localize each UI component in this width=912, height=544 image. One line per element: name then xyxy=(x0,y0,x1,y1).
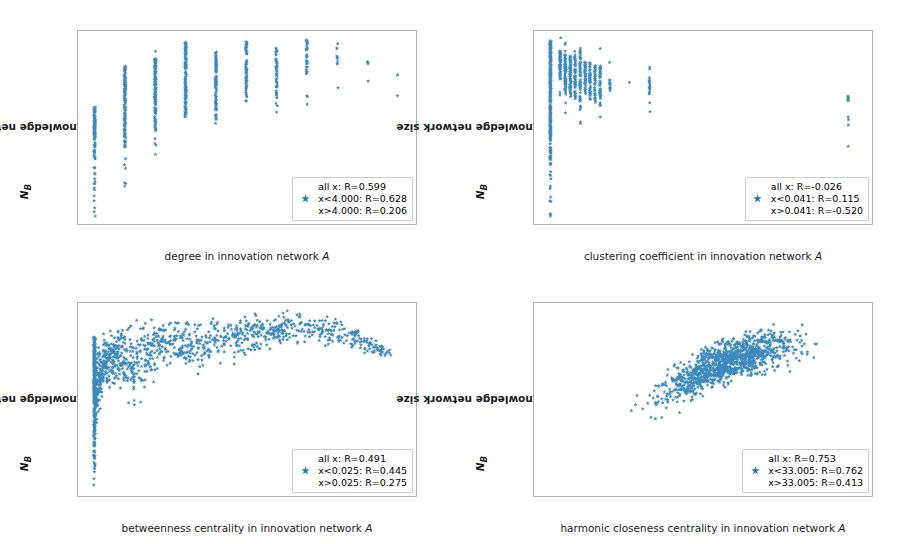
x-tick-label: 20 xyxy=(559,496,572,497)
legend-line-below: x<4.000: R=0.628 xyxy=(318,193,407,205)
x-tick-mark xyxy=(550,224,551,225)
x-tick-mark xyxy=(313,496,314,497)
x-axis-label: clustering coefficient in innovation net… xyxy=(533,250,873,262)
y-tick-mark xyxy=(533,114,534,115)
legend-star-icon xyxy=(296,194,314,203)
x-tick-label: 1.0 xyxy=(842,224,859,225)
x-tick-label: 8 xyxy=(305,224,312,225)
x-tick-mark xyxy=(369,224,370,225)
x-tick-mark xyxy=(94,496,95,497)
x-tick-mark xyxy=(269,496,270,497)
x-tick-mark xyxy=(226,496,227,497)
x-tick-mark xyxy=(693,496,694,497)
legend-line-below: x<0.025: R=0.445 xyxy=(318,465,407,477)
x-tick-mark xyxy=(756,496,757,497)
legend-box: all x: R=0.753 x<33.005: R=0.762 x>33.00… xyxy=(742,449,869,493)
x-tick-mark xyxy=(125,224,126,225)
x-tick-label: 0.14 xyxy=(390,496,413,497)
legend-line-all: all x: R=0.599 xyxy=(318,181,407,193)
x-tick-mark xyxy=(790,224,791,225)
y-tick-mark xyxy=(533,362,534,363)
x-tick-label: 0.04 xyxy=(170,496,193,497)
x-tick-label: 0.12 xyxy=(346,496,369,497)
legend-box: all x: R=0.491 x<0.025: R=0.445 x>0.025:… xyxy=(292,449,413,493)
x-tick-mark xyxy=(357,496,358,497)
y-tick-mark xyxy=(533,164,534,165)
y-tick-mark xyxy=(533,65,534,66)
x-tick-mark xyxy=(670,224,671,225)
legend-line-all: all x: R=0.491 xyxy=(318,453,407,465)
y-tick-mark xyxy=(77,65,78,66)
x-tick-label: 0.06 xyxy=(214,496,237,497)
x-tick-label: 40 xyxy=(814,496,827,497)
legend-line-below: x<0.041: R=0.115 xyxy=(771,193,863,205)
x-tick-mark xyxy=(610,224,611,225)
y-tick-mark xyxy=(77,164,78,165)
y-tick-mark xyxy=(77,411,78,412)
y-tick-mark xyxy=(77,312,78,313)
x-tick-label: 0.2 xyxy=(602,224,619,225)
x-tick-mark xyxy=(138,496,139,497)
x-tick-label: 0.08 xyxy=(258,496,281,497)
scatter-panel-clustering: knowledge network size NB all x: R=-0.02… xyxy=(456,0,912,272)
x-tick-mark xyxy=(850,224,851,225)
x-tick-mark xyxy=(730,224,731,225)
y-axis-label: knowledge network size NB xyxy=(468,302,484,497)
y-tick-mark xyxy=(77,114,78,115)
x-tick-label: 0.8 xyxy=(782,224,799,225)
x-tick-mark xyxy=(629,496,630,497)
y-tick-mark xyxy=(533,436,534,437)
x-tick-mark xyxy=(186,224,187,225)
legend-box: all x: R=-0.026 x<0.041: R=0.115 x>0.041… xyxy=(745,177,869,221)
x-tick-label: 0.02 xyxy=(127,496,150,497)
y-tick-mark xyxy=(533,485,534,486)
y-axis-label: knowledge network size NB xyxy=(12,302,28,497)
y-tick-mark xyxy=(533,312,534,313)
y-tick-mark xyxy=(533,40,534,41)
y-tick-mark xyxy=(77,213,78,214)
x-tick-mark xyxy=(820,496,821,497)
x-axis-label: betweenness centrality in innovation net… xyxy=(77,522,417,534)
y-tick-mark xyxy=(533,386,534,387)
y-tick-mark xyxy=(77,362,78,363)
y-tick-mark xyxy=(77,460,78,461)
y-tick-mark xyxy=(533,188,534,189)
plot-area: all x: R=0.599 x<4.000: R=0.628 x>4.000:… xyxy=(77,30,417,225)
y-tick-mark xyxy=(77,436,78,437)
legend-line-all: all x: R=-0.026 xyxy=(771,181,863,193)
y-tick-mark xyxy=(77,337,78,338)
x-tick-mark xyxy=(308,224,309,225)
x-tick-label: 10 xyxy=(363,224,376,225)
legend-star-icon xyxy=(746,466,764,475)
y-tick-mark xyxy=(533,337,534,338)
plot-area: all x: R=0.491 x<0.025: R=0.445 x>0.025:… xyxy=(77,302,417,497)
y-tick-mark xyxy=(533,213,534,214)
y-tick-mark xyxy=(77,188,78,189)
figure-canvas: knowledge network size NB all x: R=0.599… xyxy=(0,0,912,544)
x-tick-mark xyxy=(182,496,183,497)
x-tick-mark xyxy=(247,224,248,225)
legend-line-all: all x: R=0.753 xyxy=(768,453,863,465)
y-tick-mark xyxy=(77,40,78,41)
x-tick-label: 0.0 xyxy=(542,224,559,225)
x-tick-label: 0.6 xyxy=(722,224,739,225)
x-tick-mark xyxy=(401,496,402,497)
y-tick-mark xyxy=(77,90,78,91)
y-tick-mark xyxy=(77,139,78,140)
y-tick-mark xyxy=(533,90,534,91)
legend-line-above: x>4.000: R=0.206 xyxy=(318,205,407,217)
scatter-panel-degree: knowledge network size NB all x: R=0.599… xyxy=(0,0,456,272)
plot-area: all x: R=0.753 x<33.005: R=0.762 x>33.00… xyxy=(533,302,873,497)
x-tick-label: 6 xyxy=(244,224,251,225)
x-axis-label: degree in innovation network A xyxy=(77,250,417,262)
y-axis-label: knowledge network size NB xyxy=(468,30,484,225)
legend-star-icon xyxy=(749,194,767,203)
y-tick-mark xyxy=(533,411,534,412)
legend-line-above: x>0.025: R=0.275 xyxy=(318,477,407,489)
legend-line-above: x>33.005: R=0.413 xyxy=(768,477,863,489)
y-tick-mark xyxy=(533,460,534,461)
x-tick-label: 35 xyxy=(750,496,763,497)
x-tick-label: 0.10 xyxy=(302,496,325,497)
y-axis-label: knowledge network size NB xyxy=(12,30,28,225)
x-tick-label: 30 xyxy=(686,496,699,497)
